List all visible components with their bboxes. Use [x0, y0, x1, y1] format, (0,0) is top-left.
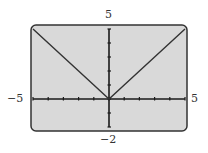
- x-min-label: −5: [7, 93, 23, 104]
- y-max-label: 5: [105, 9, 112, 20]
- graph-screen: [0, 0, 208, 153]
- y-min-label: −2: [100, 134, 116, 145]
- x-max-label: 5: [191, 93, 198, 104]
